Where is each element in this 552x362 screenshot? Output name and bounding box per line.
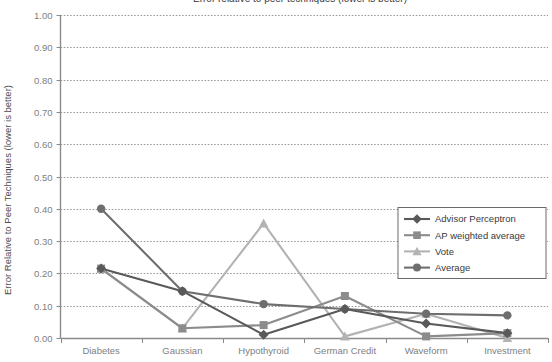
data-point-marker-square bbox=[341, 292, 349, 300]
data-point-marker-circle bbox=[259, 300, 267, 308]
x-axis-category-label: Investment bbox=[484, 345, 531, 356]
data-point-marker-square bbox=[260, 321, 268, 329]
data-point-marker-square bbox=[422, 332, 430, 340]
chart-container: 1.000.900.800.700.600.500.400.300.200.10… bbox=[0, 0, 552, 362]
data-point-marker-circle bbox=[97, 205, 105, 213]
y-axis-tick-label: 0.10 bbox=[34, 301, 53, 312]
x-axis-category-label: Diabetes bbox=[82, 345, 120, 356]
y-axis-title: Error Relative to Peer Techniques (lower… bbox=[2, 85, 13, 295]
y-axis-tick-label: 0.80 bbox=[34, 75, 53, 86]
chart-title: Error relative to peer techniques (lower… bbox=[193, 0, 407, 4]
y-axis-tick-label: 0.30 bbox=[34, 236, 53, 247]
x-axis-category-label: Gaussian bbox=[162, 345, 202, 356]
x-axis-category-label: Waveform bbox=[405, 345, 448, 356]
y-axis-tick-label: 0.50 bbox=[34, 172, 53, 183]
data-point-marker-circle bbox=[413, 264, 421, 272]
y-axis-tick-label: 0.40 bbox=[34, 204, 53, 215]
y-axis-tick-label: 0.20 bbox=[34, 268, 53, 279]
chart-background bbox=[0, 0, 552, 362]
legend-item-label: Average bbox=[435, 262, 470, 273]
data-point-marker-circle bbox=[422, 310, 430, 318]
y-axis-tick-label: 1.00 bbox=[34, 10, 53, 21]
x-axis-category-label: German Credit bbox=[314, 345, 377, 356]
y-axis-tick-label: 0.60 bbox=[34, 139, 53, 150]
y-axis-tick-label: 0.90 bbox=[34, 42, 53, 53]
legend-item-label: AP weighted average bbox=[435, 230, 525, 241]
legend-item-label: Advisor Perceptron bbox=[435, 213, 516, 224]
data-point-marker-square bbox=[413, 231, 421, 239]
data-point-marker-circle bbox=[503, 311, 511, 319]
y-axis-tick-label: 0.00 bbox=[34, 333, 53, 344]
legend: Advisor PerceptronAP weighted averageVot… bbox=[398, 208, 546, 279]
data-point-marker-square bbox=[178, 324, 186, 332]
y-axis-tick-label: 0.70 bbox=[34, 107, 53, 118]
x-axis-category-label: Hypothyroid bbox=[238, 345, 289, 356]
line-chart: 1.000.900.800.700.600.500.400.300.200.10… bbox=[0, 0, 552, 362]
legend-item-label: Vote bbox=[435, 246, 454, 257]
